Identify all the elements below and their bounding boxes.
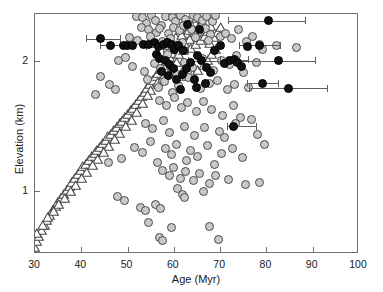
y-tick-2 <box>35 61 40 62</box>
data-point-gray <box>200 123 209 132</box>
data-point-gray <box>91 90 100 99</box>
data-point-gray <box>195 169 204 178</box>
data-point-gray <box>128 62 137 71</box>
data-point-gray <box>141 206 150 215</box>
data-point-gray <box>117 154 126 163</box>
data-point-gray <box>210 160 219 169</box>
error-bar-cap <box>247 80 248 87</box>
data-point-gray <box>192 107 201 116</box>
data-point-gray <box>205 179 214 188</box>
error-bar-cap <box>248 56 249 63</box>
data-point-black <box>186 58 195 67</box>
data-point-gray <box>181 167 190 176</box>
data-point-gray <box>189 176 198 185</box>
data-point-gray <box>159 116 168 125</box>
data-point-gray <box>165 171 174 180</box>
data-point-gray <box>228 144 237 153</box>
data-point-gray <box>138 148 147 157</box>
data-point-gray <box>252 58 261 67</box>
error-bar-cap <box>315 57 316 64</box>
error-bar-cap <box>305 17 306 24</box>
scatter-chart-figure: 3040506070809010012 Age (Myr) Elevation … <box>0 0 383 292</box>
data-point-black <box>255 41 264 50</box>
data-point-gray <box>224 175 233 184</box>
data-point-gray <box>169 163 178 172</box>
data-point-gray <box>213 76 222 85</box>
y-tick-label-2: 2 <box>12 54 28 66</box>
error-bar-cap <box>188 46 189 53</box>
error-bar-cap <box>228 17 229 24</box>
x-tick-70 <box>220 247 221 252</box>
error-bar-cap <box>239 42 240 49</box>
x-tick-label-40: 40 <box>74 258 86 270</box>
data-point-black <box>128 41 137 50</box>
data-point-black <box>216 41 225 50</box>
data-point-black <box>192 83 201 92</box>
data-point-gray <box>211 171 220 180</box>
data-point-gray <box>218 111 227 120</box>
data-point-gray <box>292 43 301 52</box>
data-point-gray <box>211 13 220 20</box>
data-point-gray <box>180 193 189 202</box>
x-tick-40 <box>81 247 82 252</box>
plot-surface <box>35 14 357 252</box>
data-point-black <box>284 84 293 93</box>
data-point-gray <box>199 97 208 106</box>
data-point-black <box>179 46 188 55</box>
data-point-black <box>106 41 115 50</box>
data-point-gray <box>191 33 200 42</box>
x-tick-label-90: 90 <box>306 258 318 270</box>
data-point-gray <box>205 222 214 231</box>
x-tick-label-100: 100 <box>349 258 367 270</box>
data-point-black <box>243 42 252 51</box>
data-point-gray <box>130 143 139 152</box>
data-point-gray <box>253 130 262 139</box>
error-bar-cap <box>280 42 281 49</box>
data-point-gray <box>158 236 167 245</box>
data-point-gray <box>182 156 191 165</box>
data-point-gray <box>146 137 155 146</box>
y-tick-1 <box>35 191 40 192</box>
error-bar-cap <box>278 80 279 87</box>
data-point-gray <box>199 187 208 196</box>
data-point-black <box>96 34 105 43</box>
data-point-gray <box>167 223 176 232</box>
y-axis-label: Elevation (km) <box>13 84 25 194</box>
data-point-gray <box>229 101 238 110</box>
data-point-gray <box>167 150 176 159</box>
data-point-gray <box>172 140 181 149</box>
data-point-gray <box>111 85 120 94</box>
error-bar-cap <box>256 123 257 130</box>
data-point-gray <box>156 204 165 213</box>
data-point-gray <box>248 32 257 41</box>
data-point-black <box>237 62 246 71</box>
data-point-gray <box>96 72 105 81</box>
x-tick-60 <box>174 247 175 252</box>
data-point-black <box>274 56 283 65</box>
data-point-gray <box>217 149 226 158</box>
x-tick-label-30: 30 <box>28 258 40 270</box>
error-bar-cap <box>86 35 87 42</box>
data-point-gray <box>155 24 164 33</box>
data-point-gray <box>238 153 247 162</box>
data-point-gray <box>255 178 264 187</box>
data-point-gray <box>120 196 129 205</box>
x-axis-label: Age (Myr) <box>34 273 358 285</box>
data-point-gray <box>207 105 216 114</box>
data-point-gray <box>180 122 189 131</box>
data-point-gray <box>162 101 171 110</box>
x-tick-label-60: 60 <box>167 258 179 270</box>
data-point-gray <box>193 152 202 161</box>
data-point-gray <box>234 25 243 34</box>
x-tick-50 <box>128 247 129 252</box>
x-tick-label-80: 80 <box>260 258 272 270</box>
data-point-gray <box>247 115 256 124</box>
data-point-gray <box>230 80 239 89</box>
data-point-black <box>229 122 238 131</box>
data-point-gray <box>241 180 250 189</box>
data-point-gray <box>190 131 199 140</box>
x-tick-90 <box>313 247 314 252</box>
data-point-black <box>258 79 267 88</box>
data-point-gray <box>204 36 213 45</box>
data-point-gray <box>148 124 157 133</box>
